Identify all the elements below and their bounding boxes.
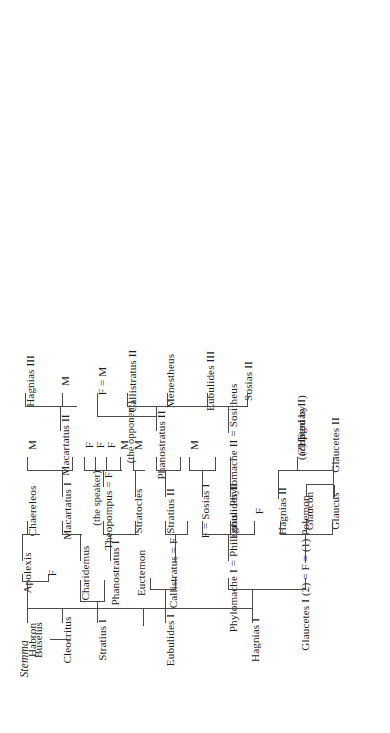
connector-phylomache-to-hagnias-sister	[254, 521, 255, 535]
person-macartatus-child-m: M	[60, 376, 72, 386]
person-callistratus-ii: Callistratus II	[127, 350, 139, 413]
connector-apolexis-out	[22, 535, 23, 561]
connector-eubulides-i-spine	[150, 589, 175, 590]
connector-to-eubulides-iii	[207, 393, 208, 407]
connector-hagnias-ii-to-adopted	[297, 457, 298, 471]
connector-phanostratus-ii-out	[156, 407, 157, 431]
person-macartatus-ii: Macartatus II	[60, 414, 72, 475]
connector-glaucetes-to-glaucus	[332, 521, 333, 535]
connector-to-stratocles	[135, 521, 136, 535]
connector-phylomache-i-spine	[202, 534, 254, 535]
connector-eubulides-i-to-callistratus	[175, 578, 176, 590]
connector-spine-to-cleocritus	[62, 609, 63, 623]
connector-callistratus-out	[175, 535, 176, 563]
connector-stratius-i-to-phanostratus	[104, 580, 105, 602]
person-stratocles-f2: F	[95, 442, 107, 448]
connector-stratocles-spine	[133, 470, 145, 471]
connector-glaucetes-to-glaucon	[306, 521, 307, 535]
person-cleocritus: Cleocritus	[62, 617, 74, 664]
person-eubulides-i: Eubulides I	[165, 614, 177, 666]
connector-stratius-i-out	[97, 602, 98, 622]
connector-phylomache-to-f-sosias	[202, 521, 203, 535]
connector-phanostratus-ii-spine	[97, 416, 157, 417]
connector-to-phylomache-i	[228, 578, 229, 590]
connector-eubulides-i-to-b	[150, 578, 151, 590]
person-euctemon: Euctemon	[136, 550, 148, 596]
connector-macartatus-i-out	[62, 471, 63, 497]
connector-f-sosias-lower	[215, 457, 216, 471]
connector-theopompus-to-f2	[95, 457, 96, 471]
person-stratocles-f3: F	[84, 442, 96, 448]
connector-macartatus-ii-to-hagnias-iii	[25, 393, 26, 407]
person-stratius-ii: Stratius II	[165, 488, 177, 534]
person-macartatus-ii-m: M	[27, 440, 39, 450]
connector-phylomache-ii-spine	[127, 406, 247, 407]
person-stratius-i: Stratius I	[97, 619, 109, 661]
connector-glaucus-stub	[334, 485, 335, 497]
connector-phanostratus-i-out	[110, 535, 111, 561]
connector-habron-out	[27, 582, 28, 622]
person-phanostratus-i: Phanostratus I	[110, 540, 122, 605]
person-charidemus: Charidemus	[80, 545, 92, 600]
connector-eubulides-ii-out	[230, 457, 231, 497]
connector-theopompus-to-f3	[84, 457, 85, 471]
connector-hagnias-ii-spine	[278, 470, 333, 471]
person-macartatus-i: Macartatus I	[62, 482, 74, 539]
connector-stratius-i-spine	[80, 601, 104, 602]
connector-to-callistratus-ii	[127, 393, 128, 407]
connector-f-sosias-to-m	[189, 457, 190, 471]
connector-callistratus-down	[187, 521, 188, 535]
connector-theopompus-to-opponent-m	[120, 457, 121, 471]
connector-macartatus-i-spine	[27, 470, 72, 471]
connector-charidemus-spine	[62, 534, 82, 535]
connector-stratius-ii-out	[165, 471, 166, 497]
note-the-speaker: (the speaker)	[92, 470, 103, 525]
note-adopted-line2: Hagnias II)	[296, 395, 308, 447]
connector-glaucus-glaucon-bracket	[306, 484, 334, 485]
connector-macartatus-ii-to-child-m	[62, 393, 63, 407]
person-hagnias-i: Hagnias I	[250, 618, 262, 662]
connector-stratius-i-to-charidemus	[80, 580, 81, 602]
connector-stratius-ii-lower	[180, 457, 181, 471]
connector-macartatus-ii-out	[60, 407, 61, 431]
connector-stratocles-out	[135, 471, 136, 497]
person-hagnias-iii: Hagnias III	[25, 355, 37, 407]
connector-glaucon-stub	[306, 485, 307, 497]
connector-to-sosias-ii	[247, 393, 248, 407]
connector-eubulides-i-out	[165, 590, 166, 622]
connector-hagnias-i-children-spine	[228, 589, 305, 590]
connector-hagnias-i-out	[252, 590, 253, 622]
connector-glaucetes-to-hagnias-ii	[280, 521, 281, 535]
connector-phylomache-to-eubulides-ii	[230, 521, 231, 535]
connector-buselus-to-spine	[143, 609, 144, 626]
connector-charidemus-out	[80, 535, 81, 561]
stemma-canvas: Buselus Hagnias I Eubulides I Stratius I…	[0, 0, 390, 733]
connector-habron-to-apolexis	[22, 574, 23, 582]
connector-stratocles-to-m	[133, 457, 134, 471]
connector-phylomache-ii-out	[228, 407, 229, 433]
person-stratocles-f1: F	[106, 442, 118, 448]
connector-to-menestheus	[167, 393, 168, 407]
person-chaereleos: Chaereleos	[27, 486, 39, 537]
connector-callistratus-to-stratius-ii	[165, 521, 166, 535]
connector-stratius-ii-spine	[156, 470, 180, 471]
connector-habron-to-f	[48, 574, 49, 582]
person-theopompus-f: Theopompus = F	[103, 472, 115, 550]
person-callistratus-f: Callistratus = F	[168, 538, 180, 609]
person-habron: Habron	[27, 623, 39, 657]
connector-phanostratus-ii-to-f-m	[97, 393, 98, 417]
person-f-equals-m: F = M	[97, 367, 109, 396]
connector-theopompus-out	[103, 471, 104, 487]
connector-charidemus-to-macartatus-i	[62, 521, 63, 535]
person-sositheus-m: M	[189, 440, 201, 450]
connector-f-sosias-spine	[189, 470, 215, 471]
connector-apolexis-spine	[22, 534, 40, 535]
connector-to-theopompus	[103, 521, 104, 535]
person-glaucetes-ii: Glaucetes II	[330, 417, 342, 473]
connector-macartatus-i-to-m	[27, 457, 28, 471]
connector-stratius-ii-to-phanostratus-ii	[156, 457, 157, 471]
connector-macartatus-i-to-macartatus-ii	[72, 457, 73, 471]
connector-gen2-vertical-spine	[27, 608, 252, 609]
connector-f-sosias-out	[202, 471, 203, 497]
connector-theopompus-to-f1	[106, 457, 107, 471]
